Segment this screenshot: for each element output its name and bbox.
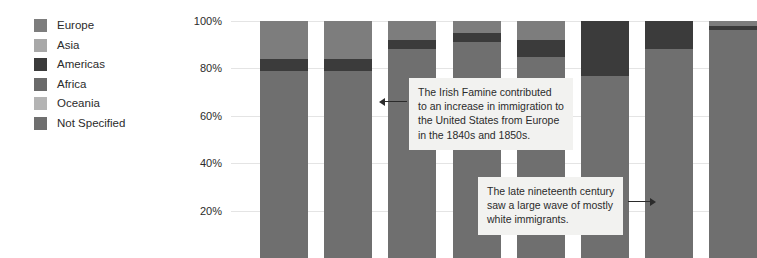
legend-swatch-icon: [34, 39, 47, 52]
legend-item-asia[interactable]: Asia: [34, 36, 125, 56]
legend-item-europe[interactable]: Europe: [34, 16, 125, 36]
legend-label: Asia: [57, 40, 79, 52]
arrow-head-icon: [650, 198, 656, 206]
annotation-irish-famine: The Irish Famine contributed to an incre…: [409, 78, 573, 150]
bar-column[interactable]: [324, 21, 372, 258]
bar-segment[interactable]: [645, 49, 693, 258]
legend-label: Oceania: [57, 98, 100, 110]
chart-legend: Europe Asia Americas Africa Oceania Not …: [34, 16, 125, 133]
legend-swatch-icon: [34, 58, 47, 71]
bar-segment[interactable]: [517, 40, 565, 57]
annotation-arrow-right-icon: [628, 196, 656, 207]
legend-swatch-icon: [34, 117, 47, 130]
legend-label: Americas: [57, 59, 105, 71]
bar-segment[interactable]: [324, 71, 372, 258]
legend-label: Europe: [57, 20, 94, 32]
y-axis-tick-label: 80%: [200, 62, 222, 74]
legend-item-oceania[interactable]: Oceania: [34, 94, 125, 114]
annotation-line: the United States from Europe: [418, 113, 564, 127]
legend-swatch-icon: [34, 19, 47, 32]
annotation-late-nineteenth-century: The late nineteenth century saw a large …: [478, 177, 623, 235]
legend-item-africa[interactable]: Africa: [34, 75, 125, 95]
y-axis-tick-label: 20%: [200, 205, 222, 217]
legend-swatch-icon: [34, 78, 47, 91]
bar-segment[interactable]: [388, 21, 436, 40]
annotation-line: The Irish Famine contributed: [418, 85, 564, 99]
bar-segment[interactable]: [453, 21, 501, 33]
annotation-arrow-left-icon: [379, 96, 407, 107]
bar-segment[interactable]: [260, 71, 308, 258]
legend-item-not-specified[interactable]: Not Specified: [34, 114, 125, 134]
annotation-line: to an increase in immigration to: [418, 99, 564, 113]
y-axis-tick-label: 60%: [200, 110, 222, 122]
bar-segment[interactable]: [260, 21, 308, 59]
bar-segment[interactable]: [645, 21, 693, 49]
arrow-line: [628, 201, 650, 202]
legend-label: Africa: [57, 79, 86, 91]
y-axis-tick-label: 100%: [194, 15, 222, 27]
bar-segment[interactable]: [517, 21, 565, 40]
bar-segment[interactable]: [324, 21, 372, 59]
bar-column[interactable]: [645, 21, 693, 258]
bar-segment[interactable]: [388, 40, 436, 49]
y-axis-tick-label: 40%: [200, 157, 222, 169]
bar-segment[interactable]: [453, 33, 501, 42]
bar-column[interactable]: [260, 21, 308, 258]
annotation-line: in the 1840s and 1850s.: [418, 128, 564, 142]
arrow-line: [385, 101, 407, 102]
bar-segment[interactable]: [581, 21, 629, 76]
annotation-line: white immigrants.: [487, 212, 614, 226]
annotation-line: saw a large wave of mostly: [487, 198, 614, 212]
bar-segment[interactable]: [260, 59, 308, 71]
bar-segment[interactable]: [324, 59, 372, 71]
bar-column[interactable]: [709, 21, 757, 258]
legend-item-americas[interactable]: Americas: [34, 55, 125, 75]
legend-label: Not Specified: [57, 118, 125, 130]
bar-segment[interactable]: [709, 30, 757, 258]
legend-swatch-icon: [34, 97, 47, 110]
annotation-line: The late nineteenth century: [487, 184, 614, 198]
